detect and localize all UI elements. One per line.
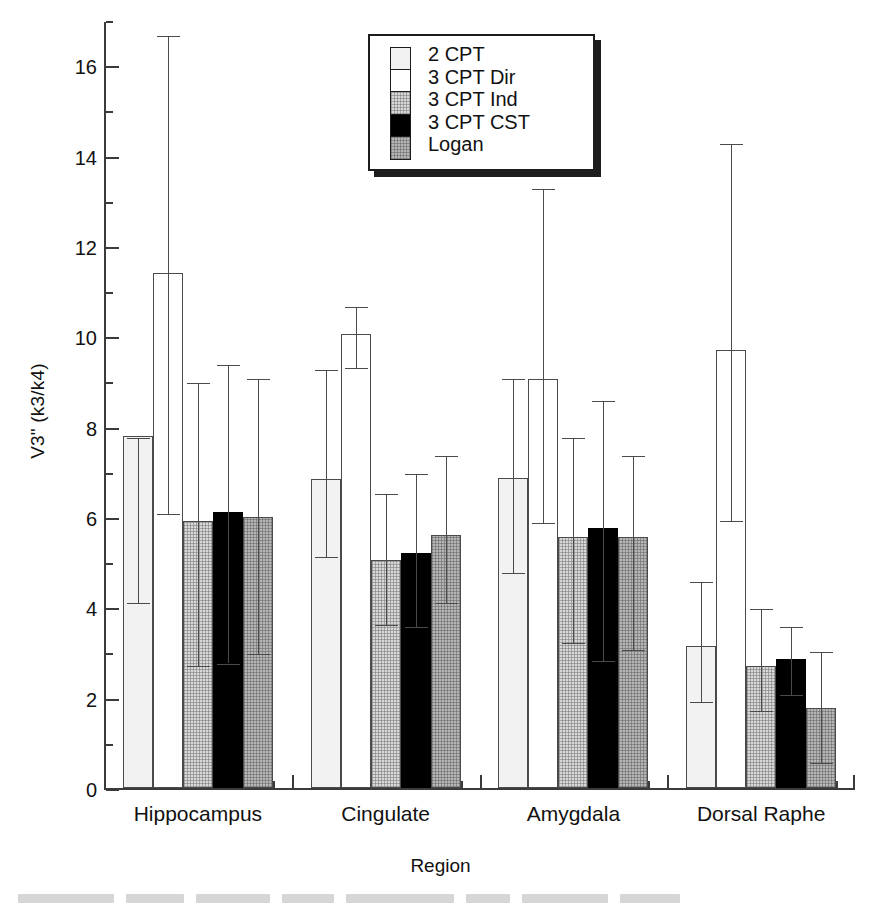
y-tick-major: 6 — [106, 518, 119, 520]
error-bar-cap-upper — [127, 438, 150, 439]
error-bar-line — [356, 307, 357, 368]
y-tick-label: 2 — [86, 688, 97, 711]
error-bar-cap-upper — [780, 627, 803, 628]
y-tick-major: 10 — [106, 337, 119, 339]
x-tick-major — [853, 775, 855, 788]
error-bar-cap-lower — [345, 368, 368, 369]
error-bar-line — [446, 456, 447, 603]
legend-swatch — [391, 92, 410, 114]
legend-swatch — [391, 70, 410, 92]
legend-swatch — [391, 115, 410, 137]
y-tick-major: 8 — [106, 428, 119, 430]
y-tick-major: 0 — [106, 789, 119, 791]
error-bar-cap-upper — [247, 379, 270, 380]
category-label: Cingulate — [341, 802, 430, 826]
error-bar-line — [228, 365, 229, 663]
error-bar-cap-lower — [622, 650, 645, 651]
error-bar-cap-upper — [690, 582, 713, 583]
error-bar-cap-upper — [345, 307, 368, 308]
y-tick-label: 4 — [86, 598, 97, 621]
error-bar-cap-lower — [810, 763, 833, 764]
figure-bar-chart: V3" (k3/k4) Region 0246810121416 Hippoca… — [0, 0, 881, 909]
error-bar-cap-upper — [435, 456, 458, 457]
x-tick-major — [292, 775, 294, 788]
error-bar-cap-upper — [217, 365, 240, 366]
legend-label: Logan — [428, 133, 530, 156]
legend: 2 CPT3 CPT Dir3 CPT Ind3 CPT CSTLogan — [368, 34, 595, 171]
legend-label: 3 CPT Ind — [428, 88, 530, 111]
caption-fragment — [126, 894, 184, 903]
error-bar-line — [386, 494, 387, 625]
error-bar-cap-upper — [622, 456, 645, 457]
y-tick-minor — [106, 382, 113, 384]
error-bar-line — [821, 652, 822, 763]
error-bar-cap-lower — [157, 514, 180, 515]
caption-strip — [0, 890, 881, 909]
error-bar-cap-lower — [562, 643, 585, 644]
error-bar-cap-upper — [502, 379, 525, 380]
legend-label: 2 CPT — [428, 43, 530, 66]
bar — [341, 334, 371, 788]
y-tick-minor — [106, 744, 113, 746]
y-tick-major: 16 — [106, 66, 119, 68]
caption-fragment — [522, 894, 608, 903]
error-bar-line — [701, 582, 702, 702]
error-bar-cap-upper — [720, 144, 743, 145]
y-tick-major: 2 — [106, 699, 119, 701]
y-axis-label: V3" (k3/k4) — [27, 311, 49, 511]
error-bar-cap-upper — [405, 474, 428, 475]
y-tick-label: 12 — [75, 236, 97, 259]
x-tick-major — [480, 775, 482, 788]
error-bar-cap-upper — [157, 36, 180, 37]
error-bar-line — [603, 401, 604, 661]
error-bar-cap-upper — [592, 401, 615, 402]
error-bar-cap-lower — [405, 627, 428, 628]
y-tick-major: 14 — [106, 157, 119, 159]
error-bar-cap-upper — [375, 494, 398, 495]
y-axis-line — [104, 22, 106, 790]
legend-swatch-column — [390, 47, 411, 160]
legend-swatch — [391, 137, 410, 159]
caption-fragment — [620, 894, 680, 903]
error-bar-cap-lower — [187, 666, 210, 667]
caption-fragment — [466, 894, 510, 903]
error-bar-line — [168, 36, 169, 515]
error-bar-cap-upper — [315, 370, 338, 371]
error-bar-cap-lower — [217, 664, 240, 665]
x-axis-label: Region — [0, 855, 881, 877]
y-tick-label: 6 — [86, 507, 97, 530]
y-tick-label: 10 — [75, 327, 97, 350]
category-label: Dorsal Raphe — [697, 802, 825, 826]
error-bar-cap-upper — [532, 189, 555, 190]
caption-fragment — [196, 894, 270, 903]
y-tick-major: 12 — [106, 247, 119, 249]
legend-label: 3 CPT Dir — [428, 66, 530, 89]
y-tick-minor — [106, 202, 113, 204]
legend-label: 3 CPT CST — [428, 111, 530, 134]
y-tick-label: 0 — [86, 779, 97, 802]
error-bar-line — [731, 144, 732, 521]
x-tick-major — [667, 775, 669, 788]
error-bar-line — [198, 383, 199, 665]
y-tick-label: 14 — [75, 146, 97, 169]
error-bar-cap-lower — [435, 603, 458, 604]
error-bar-cap-upper — [750, 609, 773, 610]
x-tick-minor — [836, 781, 838, 788]
caption-fragment — [18, 894, 114, 903]
error-bar-cap-lower — [315, 557, 338, 558]
category-label: Hippocampus — [134, 802, 262, 826]
y-tick-minor — [106, 473, 113, 475]
y-tick-minor — [106, 21, 113, 23]
error-bar-cap-lower — [780, 695, 803, 696]
legend-swatch — [391, 48, 410, 70]
error-bar-line — [633, 456, 634, 650]
error-bar-line — [258, 379, 259, 655]
error-bar-line — [791, 627, 792, 695]
x-tick-minor — [648, 781, 650, 788]
category-label: Amygdala — [527, 802, 620, 826]
y-tick-minor — [106, 111, 113, 113]
error-bar-cap-upper — [810, 652, 833, 653]
error-bar-cap-lower — [127, 603, 150, 604]
error-bar-cap-lower — [690, 702, 713, 703]
x-tick-minor — [461, 781, 463, 788]
